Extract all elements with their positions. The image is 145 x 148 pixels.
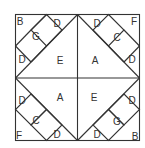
tr-c-edge bbox=[109, 46, 125, 62]
label-bl-C: C bbox=[32, 115, 39, 126]
tl-b-edge2 bbox=[31, 15, 47, 31]
label-bl-F: F bbox=[16, 130, 22, 141]
label-tl-B: B bbox=[17, 16, 24, 27]
label-br-D1: D bbox=[128, 95, 135, 106]
label-tr-D1: D bbox=[93, 18, 100, 29]
label-tl-G: G bbox=[32, 31, 40, 42]
label-tl-E: E bbox=[57, 55, 64, 66]
label-tr-F: F bbox=[131, 16, 137, 27]
tl-g-edge bbox=[31, 46, 47, 62]
label-tr-A: A bbox=[92, 55, 99, 66]
label-bl-D1: D bbox=[18, 95, 25, 106]
label-bl-D2: D bbox=[53, 129, 60, 140]
quilt-diagram: BGDDEDFCDADACFDEDGDB bbox=[0, 0, 145, 148]
label-tl-D2: D bbox=[18, 54, 25, 65]
tr-f-edge bbox=[124, 30, 140, 46]
label-tr-D2: D bbox=[128, 54, 135, 65]
label-bl-A: A bbox=[57, 92, 64, 103]
label-br-E: E bbox=[91, 92, 98, 103]
tl-b-edge bbox=[16, 30, 32, 46]
label-br-G: G bbox=[113, 116, 121, 127]
label-tl-D1: D bbox=[53, 18, 60, 29]
label-br-D2: D bbox=[93, 129, 100, 140]
label-tr-C: C bbox=[113, 32, 120, 43]
label-br-B: B bbox=[132, 131, 139, 142]
